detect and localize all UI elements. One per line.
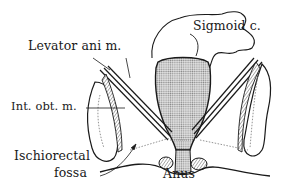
label-sigmoid-colon: Sigmoid c. (193, 20, 261, 33)
label-anus: Anus (163, 168, 195, 181)
rectum (155, 58, 210, 174)
label-fossa: fossa (54, 167, 87, 180)
ischium-right (238, 62, 270, 156)
label-levator-ani: Levator ani m. (28, 40, 121, 53)
label-ischiorectal: Ischiorectal (14, 150, 90, 163)
label-internal-obturator: Int. obt. m. (11, 101, 77, 113)
